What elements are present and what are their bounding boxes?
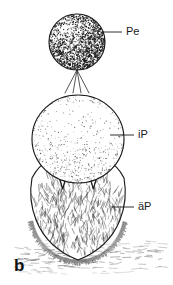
scientific-illustration: PeiPäP b	[0, 0, 173, 285]
peridium-sphere	[48, 14, 105, 71]
label-pe: Pe	[126, 25, 139, 37]
label-ip: iP	[138, 128, 148, 140]
panel-letter: b	[14, 256, 24, 275]
figure-panel-b: PeiPäP b	[0, 0, 173, 285]
label-aep: äP	[138, 200, 151, 212]
inner-peridium-sphere	[32, 95, 124, 184]
